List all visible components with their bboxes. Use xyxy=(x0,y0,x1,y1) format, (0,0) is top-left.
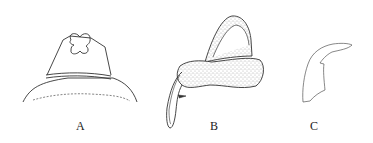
figure: A B C xyxy=(0,0,373,143)
panel-a-drawing xyxy=(23,34,137,102)
panel-label-a: A xyxy=(76,120,85,132)
panel-b-drawing xyxy=(167,16,264,128)
panel-label-b: B xyxy=(210,120,218,132)
panel-label-c: C xyxy=(310,120,318,132)
panel-c-drawing xyxy=(303,43,352,102)
